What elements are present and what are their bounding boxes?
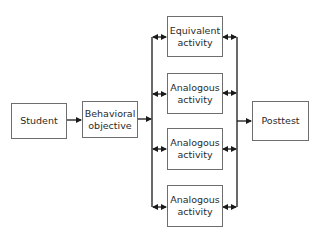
objective-label-line2: objective: [88, 120, 131, 132]
instruction-flow-diagram: Student Behavioral objective Equivalent …: [0, 0, 319, 238]
activity4-line1: Analogous: [170, 194, 220, 206]
posttest-label: Posttest: [261, 115, 299, 127]
behavioral-objective-box: Behavioral objective: [82, 101, 138, 138]
objective-label-line1: Behavioral: [85, 108, 136, 120]
analogous-activity-box-3: Analogous activity: [167, 185, 223, 227]
activity3-line1: Analogous: [170, 137, 220, 149]
analogous-activity-box-1: Analogous activity: [167, 73, 223, 114]
activity2-line1: Analogous: [170, 82, 220, 94]
activity1-line2: activity: [177, 37, 212, 49]
activity3-line2: activity: [177, 149, 212, 161]
activity2-line2: activity: [177, 94, 212, 106]
posttest-box: Posttest: [252, 101, 309, 141]
activity1-line1: Equivalent: [170, 25, 220, 37]
activity4-line2: activity: [177, 206, 212, 218]
student-label: Student: [20, 115, 57, 127]
equivalent-activity-box: Equivalent activity: [167, 16, 223, 57]
student-box: Student: [11, 103, 67, 139]
analogous-activity-box-2: Analogous activity: [167, 128, 223, 170]
